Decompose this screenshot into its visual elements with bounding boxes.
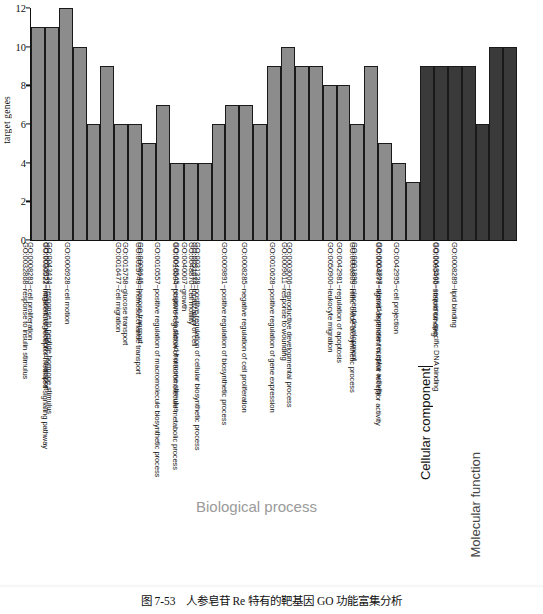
bar	[350, 124, 364, 240]
x-tick-cell: GO:0006928~cell motion	[101, 242, 115, 542]
bar	[45, 27, 59, 240]
bar	[156, 105, 170, 240]
bar	[281, 47, 295, 240]
bar	[128, 124, 142, 240]
chart-plot-area: 024681012	[30, 8, 517, 240]
figure-caption: 图 7-53人参皂苷 Re 特有的靶基因 GO 功能富集分析	[0, 592, 543, 608]
x-tick-cell: GO:0043565~sequence-specific DNA binding	[504, 242, 518, 542]
y-tick-label: 10	[16, 41, 27, 52]
x-tick-label: GO:0006809~nitric oxide biosynthetic pro…	[348, 242, 357, 393]
bar	[420, 66, 434, 240]
x-tick-label: GO:0010557~positive regulation of macrom…	[153, 242, 162, 477]
bar	[364, 66, 378, 240]
bar	[212, 124, 226, 240]
caption-number: 图 7-53	[141, 595, 176, 607]
y-tick-mark	[26, 162, 30, 163]
x-tick-cell: GO:0009891~positive regulation of biosyn…	[309, 242, 323, 542]
bar-series	[31, 8, 517, 240]
bar	[100, 66, 114, 240]
bar	[142, 143, 156, 240]
bar	[378, 143, 392, 240]
y-axis-label: target genes	[2, 96, 12, 144]
x-tick-cell: GO:0032868~response to insulin stimulus	[87, 242, 101, 542]
y-tick-mark	[26, 201, 30, 202]
figure-root: 024681012 target genes GO:0009725~respon…	[0, 0, 543, 614]
x-tick-label: GO:0010628~positive regulation of gene e…	[268, 242, 277, 413]
bar	[503, 47, 517, 240]
bar	[184, 163, 198, 240]
bar	[337, 85, 351, 240]
group-label-cellular-component: Cellular component	[418, 366, 433, 480]
x-tick-label: GO:0004879~ligand-dependent nuclear rece…	[373, 242, 382, 426]
x-tick-label: GO:0010604~positive regulation of macrom…	[170, 242, 179, 470]
bar	[31, 27, 45, 240]
bar	[170, 163, 184, 240]
bar	[406, 182, 420, 240]
bar	[392, 163, 406, 240]
bar	[462, 66, 476, 240]
y-tick-mark	[26, 7, 30, 8]
x-tick-cell: GO:0048545~response to steroid hormone s…	[254, 242, 268, 542]
bar	[87, 124, 101, 240]
x-tick-label: GO:0015758~glucose transport	[121, 242, 130, 345]
x-tick-label: GO:0032868~response to insulin stimulus	[21, 242, 30, 379]
bar	[59, 8, 73, 240]
x-tick-label: GO:0043565~sequence-specific DNA binding	[432, 242, 441, 391]
x-tick-cell: GO:0031328~positive regulation of cellul…	[296, 242, 310, 542]
bar	[239, 105, 253, 240]
x-tick-label: GO:0008285~negative regulation of cell p…	[241, 242, 250, 413]
bar	[323, 85, 337, 240]
scan-band	[0, 584, 543, 587]
bar	[114, 124, 128, 240]
bar	[225, 105, 239, 240]
bar	[476, 124, 490, 240]
y-tick-mark	[26, 85, 30, 86]
x-tick-label: GO:0042995~cell projection	[391, 242, 400, 334]
x-tick-cell: GO:0008283~cell proliferation	[73, 242, 87, 542]
bar	[73, 47, 87, 240]
bar	[309, 66, 323, 240]
bar	[267, 66, 281, 240]
x-tick-label: GO:0006928~cell motion	[62, 242, 71, 324]
group-label-biological-process: Biological process	[196, 498, 317, 515]
caption-text: 人参皂苷 Re 特有的靶基因 GO 功能富集分析	[186, 595, 403, 607]
group-label-molecular-function: Molecular function	[468, 452, 483, 558]
x-axis-tick-labels: GO:0009725~response to hormone stimulusG…	[31, 242, 518, 542]
x-tick-label: GO:0030522~intracellular receptor-mediat…	[41, 242, 50, 449]
x-tick-label: GO:0031328~positive regulation of cellul…	[194, 242, 203, 450]
bar	[489, 47, 503, 240]
x-tick-label: GO:0042981~regulation of apoptosis	[335, 242, 344, 363]
bar	[198, 163, 212, 240]
y-tick-mark	[26, 123, 30, 124]
y-tick-label: 12	[16, 3, 27, 14]
bar	[253, 124, 267, 240]
bar	[434, 66, 448, 240]
x-tick-label: GO:0008289~lipid binding	[450, 242, 459, 328]
bar	[448, 66, 462, 240]
x-tick-label: GO:0015749~monosaccharide transport	[135, 242, 144, 374]
x-tick-cell: GO:0008289~lipid binding	[490, 242, 504, 542]
y-tick-mark	[26, 239, 30, 240]
x-tick-label: GO:0003006~reproductive developmental pr…	[285, 242, 294, 407]
bar	[295, 66, 309, 240]
y-tick-mark	[26, 46, 30, 47]
x-tick-label: GO:0009891~positive regulation of biosyn…	[220, 242, 229, 425]
x-tick-label: GO:0050900~leukocyte migration	[326, 242, 335, 352]
